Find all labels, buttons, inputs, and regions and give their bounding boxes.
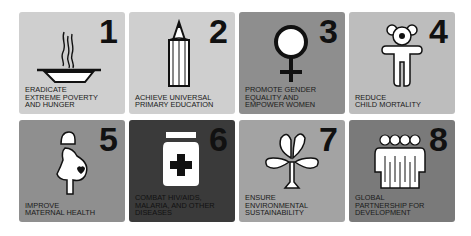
goal-number: 5 [99, 122, 118, 156]
goal-label: REDUCECHILD MORTALITY [355, 94, 451, 109]
goal-number: 8 [429, 122, 448, 156]
goal-number: 1 [99, 14, 118, 48]
goal-label: PROMOTE GENDEREQUALITY ANDEMPOWER WOMEN [245, 86, 341, 109]
goal-tile-6: 6 COMBAT HIV/AIDS,MALARIA, AND OTHERDISE… [129, 120, 235, 222]
goal-tile-2: 2 ACHIEVE UNIVERSALPRIMARY EDUCATION [129, 12, 235, 114]
goal-number: 7 [319, 122, 338, 156]
goal-label: GLOBALPARTNERSHIP FORDEVELOPMENT [355, 194, 451, 217]
goal-tile-7: 7 ENSUREENVIRONMENTALSUSTAINABILITY [239, 120, 345, 222]
goal-label: COMBAT HIV/AIDS,MALARIA, AND OTHERDISEAS… [135, 194, 231, 217]
goal-label: ACHIEVE UNIVERSALPRIMARY EDUCATION [135, 94, 231, 109]
goal-label: IMPROVEMATERNAL HEALTH [25, 202, 121, 217]
goal-number: 3 [319, 14, 338, 48]
goal-number: 6 [209, 122, 228, 156]
goal-tile-3: 3 PROMOTE GENDEREQUALITY ANDEMPOWER WOME… [239, 12, 345, 114]
goal-tile-1: 1 ERADICATEEXTREME POVERTYAND HUNGER [19, 12, 125, 114]
goal-number: 4 [429, 14, 448, 48]
goal-tile-8: 8 GLOBALPARTNERSHIP FORDEVELOPMENT [349, 120, 455, 222]
goal-number: 2 [209, 14, 228, 48]
goal-label: ENSUREENVIRONMENTALSUSTAINABILITY [245, 194, 341, 217]
goals-grid: 1 ERADICATEEXTREME POVERTYAND HUNGER 2 A… [19, 12, 455, 222]
goal-tile-5: 5 IMPROVEMATERNAL HEALTH [19, 120, 125, 222]
goal-tile-4: 4 REDUCECHILD MORTALITY [349, 12, 455, 114]
goal-label: ERADICATEEXTREME POVERTYAND HUNGER [25, 86, 121, 109]
